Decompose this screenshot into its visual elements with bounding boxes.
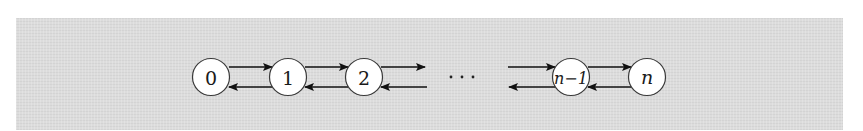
state-chain-diagram: 0 1 2 n−1 n [0,0,863,131]
state-label: n [641,66,653,88]
state-label: 2 [358,67,370,89]
state-label: 1 [282,67,294,89]
state-node-2: 2 [346,59,383,96]
state-node-1: 1 [270,59,307,96]
state-node-n: n [629,59,666,96]
state-label: 0 [205,67,217,89]
state-node-0: 0 [193,59,230,96]
state-label: n−1 [554,69,588,88]
ellipsis [450,76,475,79]
state-node-n-1: n−1 [553,59,590,96]
